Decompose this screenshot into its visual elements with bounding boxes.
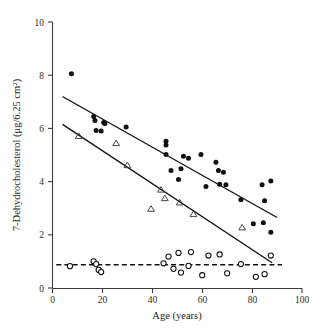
point-filled-circle xyxy=(99,129,104,134)
y-tick-label-2: 2 xyxy=(39,230,44,240)
x-axis-ticks xyxy=(53,289,303,294)
point-open-triangle xyxy=(239,224,246,230)
point-filled-circle xyxy=(181,154,186,159)
point-filled-circle xyxy=(164,152,169,157)
point-filled-circle xyxy=(223,182,228,187)
point-open-circle xyxy=(178,270,183,275)
y-axis-title-close: ) xyxy=(11,78,23,82)
point-filled-circle xyxy=(176,177,181,182)
point-open-circle xyxy=(94,261,99,266)
x-tick-label-40: 40 xyxy=(148,295,158,305)
y-tick-label-10: 10 xyxy=(35,18,45,28)
point-filled-circle xyxy=(69,71,74,76)
y-tick-label-6: 6 xyxy=(39,124,44,134)
series-open-triangles xyxy=(75,133,245,230)
point-filled-circle xyxy=(216,168,221,173)
series-open-circles xyxy=(67,249,273,279)
y-axis-title: 7-Dehydrocholesterol (μg/6.25 cm xyxy=(11,86,23,231)
point-open-circle xyxy=(225,271,230,276)
point-filled-circle xyxy=(221,170,226,175)
point-open-circle xyxy=(186,263,191,268)
y-tick-label-4: 4 xyxy=(39,177,44,187)
point-filled-circle xyxy=(102,121,107,126)
point-open-circle xyxy=(206,253,211,258)
point-open-circle xyxy=(268,253,273,258)
point-filled-circle xyxy=(164,142,169,147)
point-filled-circle xyxy=(213,160,218,165)
x-tick-label-20: 20 xyxy=(98,295,108,305)
point-open-circle xyxy=(99,269,104,274)
x-tick-label-80: 80 xyxy=(248,295,258,305)
point-open-circle xyxy=(67,264,72,269)
point-filled-circle xyxy=(261,220,266,225)
x-tick-label-100: 100 xyxy=(295,295,310,305)
point-open-triangle xyxy=(113,140,120,146)
point-open-circle xyxy=(200,273,205,278)
point-filled-circle xyxy=(94,128,99,133)
x-tick-label-60: 60 xyxy=(198,295,208,305)
series-filled-circles xyxy=(69,71,273,234)
point-open-triangle xyxy=(148,206,155,212)
point-filled-circle xyxy=(260,182,265,187)
point-open-circle xyxy=(161,261,166,266)
scatter-plot-svg: 0 2 4 6 8 10 0 20 40 60 80 100 Age (year… xyxy=(0,0,330,330)
point-filled-circle xyxy=(238,197,243,202)
data-markers-layer xyxy=(67,71,273,279)
point-filled-circle xyxy=(178,166,183,171)
point-open-circle xyxy=(166,254,171,259)
point-open-circle xyxy=(238,261,243,266)
point-filled-circle xyxy=(169,168,174,173)
y-tick-label-8: 8 xyxy=(39,71,44,81)
point-filled-circle xyxy=(124,125,129,130)
x-tick-label-0: 0 xyxy=(50,295,55,305)
point-filled-circle xyxy=(203,184,208,189)
svg-text:7-Dehydrocholesterol (μg/6.25: 7-Dehydrocholesterol (μg/6.25 cm2) xyxy=(11,78,24,231)
point-open-circle xyxy=(217,252,222,257)
point-filled-circle xyxy=(186,156,191,161)
y-axis-title-group: 7-Dehydrocholesterol (μg/6.25 cm2) xyxy=(11,78,24,231)
x-axis-title: Age (years) xyxy=(152,310,202,322)
point-open-circle xyxy=(171,266,176,271)
point-open-circle xyxy=(262,272,267,277)
y-axis-ticks xyxy=(48,22,53,288)
point-filled-circle xyxy=(92,118,97,123)
point-filled-circle xyxy=(217,182,222,187)
chart-figure: 0 2 4 6 8 10 0 20 40 60 80 100 Age (year… xyxy=(0,0,330,330)
point-open-triangle xyxy=(161,195,168,201)
point-open-circle xyxy=(188,249,193,254)
point-filled-circle xyxy=(268,230,273,235)
point-filled-circle xyxy=(268,179,273,184)
y-tick-label-0: 0 xyxy=(39,284,44,294)
point-filled-circle xyxy=(262,198,267,203)
point-open-circle xyxy=(253,274,258,279)
point-open-circle xyxy=(176,250,181,255)
point-filled-circle xyxy=(251,221,256,226)
point-filled-circle xyxy=(198,152,203,157)
